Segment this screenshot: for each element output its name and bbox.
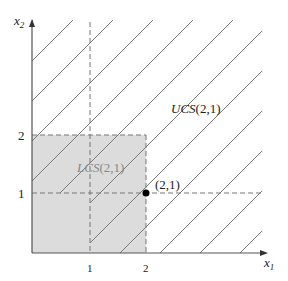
- x-tick-2: 2: [143, 262, 149, 274]
- y-tick-1: 1: [18, 186, 25, 201]
- lcs-label: LCS(2,1): [76, 160, 124, 175]
- diagram: x2 x1 1 2 1 2 UCS(2,1) LCS(2,1) (2,1): [0, 0, 288, 281]
- ucs-label: UCS(2,1): [171, 101, 220, 116]
- point-2-1: [143, 190, 150, 197]
- y-tick-2: 2: [18, 128, 25, 143]
- x-axis-label: x1: [263, 255, 274, 272]
- y-axis-arrow-icon: [29, 19, 35, 27]
- lcs-region: [32, 135, 146, 253]
- x-tick-1: 1: [87, 262, 93, 274]
- point-label: (2,1): [155, 177, 180, 192]
- y-axis-label: x2: [13, 13, 25, 30]
